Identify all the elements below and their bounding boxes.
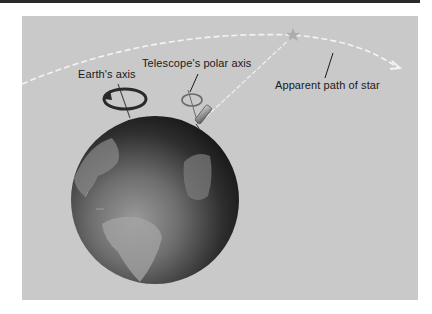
path-label-leader	[325, 53, 333, 78]
path-arrowhead-icon	[390, 61, 400, 69]
star-icon	[286, 28, 300, 41]
earth-axis-label: Earth's axis	[78, 68, 136, 80]
diagram-canvas	[0, 0, 432, 314]
telescope-label-leader	[190, 74, 198, 92]
earth-globe	[71, 116, 239, 284]
telescope-sightline	[206, 36, 293, 117]
apparent-path-label: Apparent path of star	[275, 79, 380, 91]
telescope-polar-axis-label: Telescope's polar axis	[142, 57, 251, 69]
rotation-arrow-icon	[104, 89, 146, 109]
telescope-icon	[194, 104, 212, 130]
